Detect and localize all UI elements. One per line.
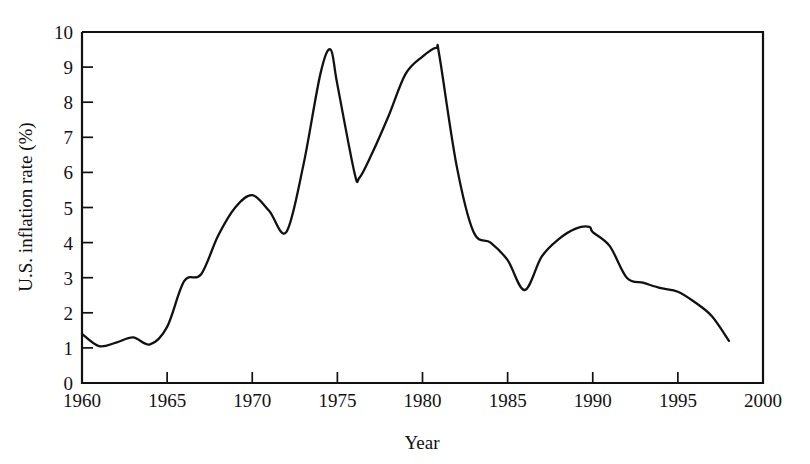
data-series-group xyxy=(82,45,729,347)
x-axis-tick-marks xyxy=(167,372,678,383)
plot-frame xyxy=(82,32,763,383)
x-tick-label-1990: 1990 xyxy=(574,390,612,411)
x-tick-label-1965: 1965 xyxy=(148,390,186,411)
x-tick-label-1980: 1980 xyxy=(404,390,442,411)
y-tick-label-1: 1 xyxy=(64,338,74,359)
x-tick-label-1960: 1960 xyxy=(63,390,101,411)
y-tick-label-9: 9 xyxy=(64,57,74,78)
y-tick-label-8: 8 xyxy=(64,92,74,113)
x-tick-label-2000: 2000 xyxy=(744,390,782,411)
y-tick-label-10: 10 xyxy=(54,22,73,43)
y-axis-tick-labels: 012345678910 xyxy=(54,22,74,394)
y-axis-tick-marks xyxy=(82,67,93,348)
y-tick-label-6: 6 xyxy=(64,162,74,183)
y-tick-label-7: 7 xyxy=(64,127,74,148)
x-tick-label-1970: 1970 xyxy=(233,390,271,411)
chart-figure: 012345678910 196019651970197519801985199… xyxy=(0,0,810,464)
x-tick-label-1995: 1995 xyxy=(659,390,697,411)
y-tick-label-4: 4 xyxy=(64,233,74,254)
inflation-rate-line xyxy=(82,45,729,347)
axis-frame-path xyxy=(82,32,763,383)
x-axis-tick-labels: 196019651970197519801985199019952000 xyxy=(63,390,782,411)
line-chart-svg: 012345678910 196019651970197519801985199… xyxy=(0,0,810,464)
x-tick-label-1975: 1975 xyxy=(318,390,356,411)
y-tick-label-3: 3 xyxy=(64,268,74,289)
y-axis-title: U.S. inflation rate (%) xyxy=(15,122,37,291)
y-tick-label-2: 2 xyxy=(64,303,74,324)
x-tick-label-1985: 1985 xyxy=(489,390,527,411)
y-tick-label-5: 5 xyxy=(64,198,74,219)
x-axis-title: Year xyxy=(404,432,440,453)
